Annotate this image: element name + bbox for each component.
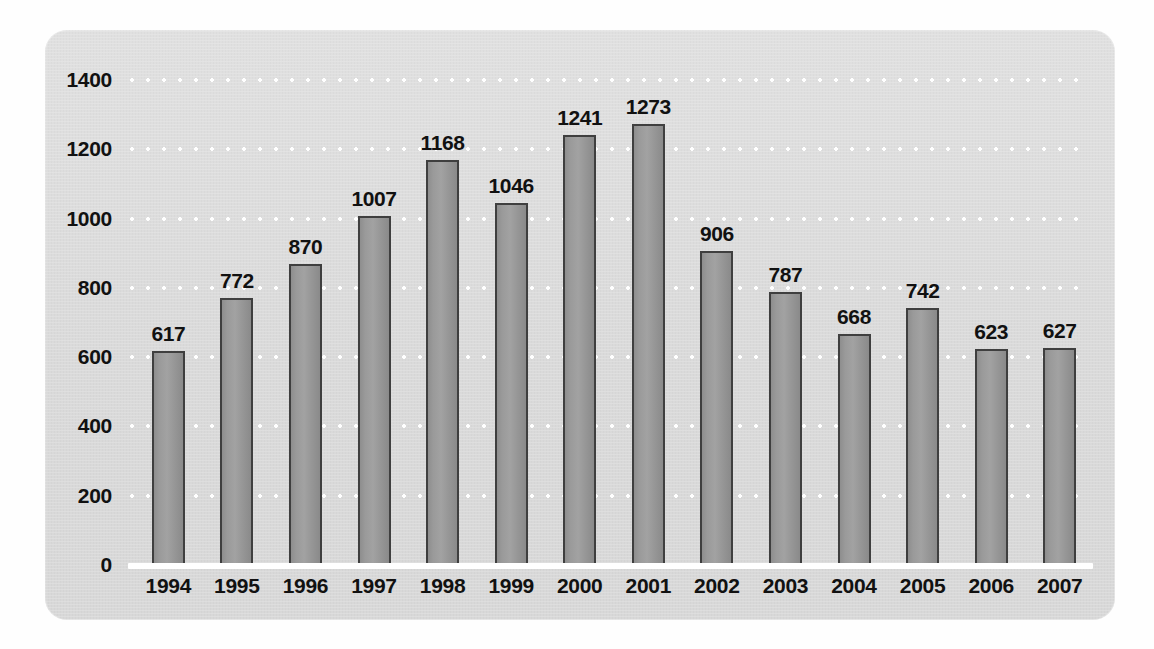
bar[interactable]	[700, 251, 733, 565]
y-axis-tick-label: 200	[0, 484, 112, 508]
x-axis-baseline	[128, 563, 1093, 569]
bar[interactable]	[563, 135, 596, 565]
bar[interactable]	[838, 334, 871, 565]
bar[interactable]	[632, 124, 665, 565]
bar[interactable]	[358, 216, 391, 565]
bar-value-label: 906	[672, 222, 762, 246]
bar-value-label: 1007	[329, 187, 419, 211]
y-axis-tick-label: 0	[0, 553, 112, 577]
y-axis-tick-label: 800	[0, 276, 112, 300]
bar-value-label: 617	[123, 322, 213, 346]
gridline	[130, 355, 1090, 359]
chart-screenshot: 0200400600800100012001400 61777287010071…	[0, 0, 1154, 649]
bar-value-label: 627	[1015, 319, 1105, 343]
bar[interactable]	[906, 308, 939, 565]
bar-value-label: 772	[192, 269, 282, 293]
gridline	[130, 217, 1090, 221]
y-axis-tick-label: 600	[0, 345, 112, 369]
bar-value-label: 1168	[398, 131, 488, 155]
bar-value-label: 742	[878, 279, 968, 303]
bar-value-label: 668	[809, 305, 899, 329]
bar-value-label: 1273	[603, 95, 693, 119]
bar-value-label: 1046	[466, 174, 556, 198]
bar[interactable]	[1043, 348, 1076, 565]
bar[interactable]	[220, 298, 253, 565]
y-axis-tick-label: 400	[0, 414, 112, 438]
gridline	[130, 494, 1090, 498]
bar[interactable]	[289, 264, 322, 565]
x-axis-tick-label: 2007	[1015, 574, 1105, 598]
bar[interactable]	[495, 203, 528, 565]
bar[interactable]	[769, 292, 802, 565]
bar[interactable]	[152, 351, 185, 565]
gridline	[130, 424, 1090, 428]
y-axis-tick-label: 1000	[0, 207, 112, 231]
y-axis-tick-label: 1400	[0, 68, 112, 92]
gridline	[130, 147, 1090, 151]
bar-value-label: 787	[740, 263, 830, 287]
bar-value-label: 870	[260, 235, 350, 259]
bar[interactable]	[975, 349, 1008, 565]
y-axis-tick-label: 1200	[0, 137, 112, 161]
plot-area: 6177728701007116810461241127390678766874…	[130, 80, 1090, 565]
bar[interactable]	[426, 160, 459, 565]
